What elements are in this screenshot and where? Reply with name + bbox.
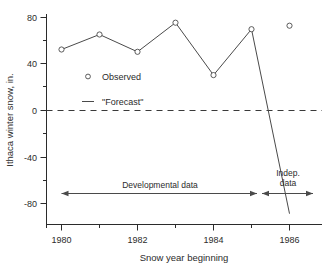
y-tick-label-neg80: -80	[24, 199, 37, 209]
y-axis-title: Ithaca winter snow, in.	[4, 73, 15, 166]
x-tick-label-1980: 1980	[51, 235, 71, 245]
indep-data-label-line1: Indep.	[276, 168, 300, 178]
legend-observed-marker-icon	[86, 74, 91, 79]
x-tick-label-1986: 1986	[279, 235, 299, 245]
data-point-1984	[211, 73, 216, 78]
indep-data-label-line2: data	[280, 178, 297, 188]
y-tick-label-40: 40	[27, 59, 37, 69]
y-tick-label-80: 80	[27, 13, 37, 23]
data-point-1986	[287, 23, 292, 28]
legend-label-observed: Observed	[102, 72, 141, 82]
data-point-1982	[135, 49, 140, 54]
chart-figure: 80 40 0 -40 -80 Ithaca winter snow, in. …	[0, 0, 325, 271]
y-tick-label-neg40: -40	[24, 153, 37, 163]
data-point-1980	[59, 47, 64, 52]
chart-background	[0, 0, 325, 271]
data-point-1983	[173, 20, 178, 25]
data-point-1981	[97, 32, 102, 37]
x-tick-label-1984: 1984	[203, 235, 223, 245]
developmental-data-label: Developmental data	[122, 180, 198, 190]
y-tick-label-0: 0	[32, 106, 37, 116]
x-tick-label-1982: 1982	[127, 235, 147, 245]
legend-label-forecast: "Forecast"	[102, 97, 143, 107]
x-axis-title: Snow year beginning	[140, 252, 229, 263]
snow-forecast-line-chart: 80 40 0 -40 -80 Ithaca winter snow, in. …	[0, 0, 325, 271]
data-point-1985	[249, 27, 254, 32]
